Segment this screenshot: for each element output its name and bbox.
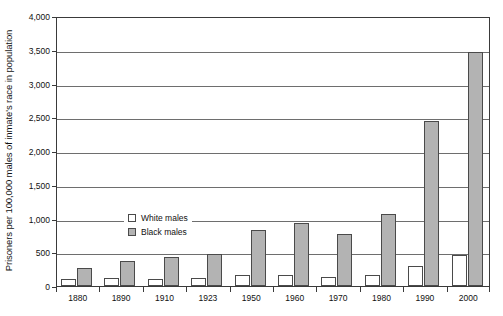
y-axis-tick-label: 1,500: [6, 181, 50, 191]
legend-label: Black males: [141, 227, 187, 237]
bar-group-1960: [274, 18, 317, 286]
x-axis-tick-label-1910: 1910: [155, 293, 174, 303]
x-axis-tick-label-1970: 1970: [329, 293, 348, 303]
bar-white-males-1910: [148, 279, 163, 286]
x-axis-tick-label-2000: 2000: [459, 293, 478, 303]
x-axis-tick-mark: [230, 287, 231, 292]
bar-group-1910: [144, 18, 187, 286]
bar-black-males-1880: [77, 268, 92, 286]
x-axis-tick-label-1980: 1980: [372, 293, 391, 303]
x-axis-tick-label-1880: 1880: [68, 293, 87, 303]
bars-layer: [57, 18, 489, 286]
bar-group-1880: [57, 18, 100, 286]
x-axis-tick-mark: [316, 287, 317, 292]
x-axis-tick-label-1923: 1923: [198, 293, 217, 303]
bar-black-males-1950: [251, 230, 266, 286]
plot-area: White malesBlack males: [56, 17, 490, 287]
x-axis-tick-mark: [143, 287, 144, 292]
x-axis-tick-mark: [273, 287, 274, 292]
x-axis-tick-mark: [360, 287, 361, 292]
y-axis-tick-label: 4,000: [6, 12, 50, 22]
bar-black-males-1980: [381, 214, 396, 286]
bar-white-males-1880: [61, 279, 76, 286]
bar-white-males-1950: [235, 275, 250, 286]
x-axis-tick-mark: [447, 287, 448, 292]
legend-swatch-icon: [128, 228, 136, 236]
bar-black-males-1990: [424, 121, 439, 286]
y-axis-tick-label: 2,000: [6, 147, 50, 157]
legend-label: White males: [141, 213, 188, 223]
bar-black-males-1923: [207, 254, 222, 286]
bar-group-1990: [404, 18, 447, 286]
bar-white-males-1970: [321, 277, 336, 286]
chart-legend: White malesBlack males: [124, 208, 192, 241]
bar-white-males-1980: [365, 275, 380, 286]
bar-white-males-1923: [191, 278, 206, 286]
x-axis-tick-mark: [403, 287, 404, 292]
bar-chart: Prisoners per 100,000 males of inmate's …: [0, 0, 503, 316]
legend-item-white-males: White males: [128, 211, 188, 224]
bar-white-males-1960: [278, 275, 293, 286]
bar-group-1890: [100, 18, 143, 286]
y-axis-tick-label: 2,500: [6, 113, 50, 123]
x-axis-tick-labels: 1880189019101923195019601970198019902000: [56, 293, 490, 309]
x-axis-tick-mark: [186, 287, 187, 292]
bar-white-males-1890: [104, 278, 119, 286]
bar-group-1923: [187, 18, 230, 286]
x-axis-tick-mark: [489, 287, 490, 292]
bar-black-males-1910: [164, 257, 179, 286]
bar-black-males-1960: [294, 223, 309, 286]
x-axis-tick-label-1960: 1960: [285, 293, 304, 303]
bar-white-males-1990: [408, 266, 423, 286]
bar-group-2000: [448, 18, 491, 286]
bar-white-males-2000: [452, 255, 467, 286]
y-axis-tick-label: 3,000: [6, 80, 50, 90]
bar-black-males-1970: [337, 234, 352, 286]
x-axis-tick-label-1990: 1990: [415, 293, 434, 303]
legend-swatch-icon: [128, 214, 136, 222]
bar-black-males-1890: [120, 261, 135, 286]
legend-item-black-males: Black males: [128, 225, 188, 238]
y-axis-tick-label: 0: [6, 282, 50, 292]
bar-group-1970: [317, 18, 360, 286]
x-axis-tick-mark: [56, 287, 57, 292]
x-axis-tick-label-1890: 1890: [112, 293, 131, 303]
y-axis-tick-label: 3,500: [6, 46, 50, 56]
x-axis-tick-label-1950: 1950: [242, 293, 261, 303]
bar-black-males-2000: [468, 52, 483, 286]
bar-group-1980: [361, 18, 404, 286]
y-axis-tick-label: 500: [6, 248, 50, 258]
y-axis-tick-label: 1,000: [6, 215, 50, 225]
y-axis-tick-labels: 05001,0001,5002,0002,5003,0003,5004,000: [6, 0, 50, 316]
x-axis-tick-mark: [99, 287, 100, 292]
bar-group-1950: [231, 18, 274, 286]
